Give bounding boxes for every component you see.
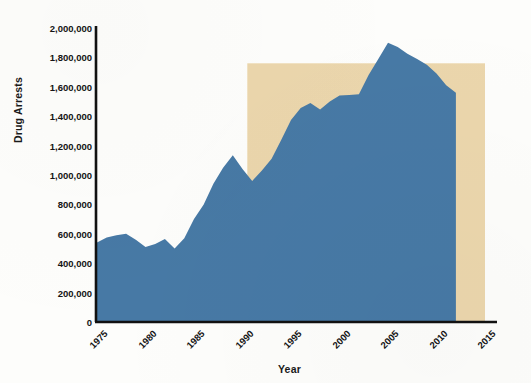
x-axis-ticks: 197519801985199019952000200520102015 (0, 0, 531, 383)
x-axis-title-text: Year (278, 363, 301, 375)
chart-container: 0200,000400,000600,000800,0001,000,0001,… (0, 0, 531, 383)
y-axis-title: Drug Arrests (12, 50, 24, 170)
x-axis-title: Year (0, 363, 531, 375)
